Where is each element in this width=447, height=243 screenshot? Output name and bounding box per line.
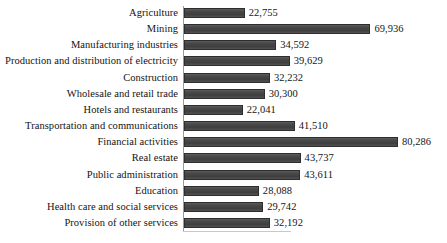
- bar-value-label: 32,192: [274, 215, 303, 231]
- bar-row: Transportation and communications41,510: [0, 118, 447, 134]
- bar-track: [184, 89, 265, 99]
- bar-row: Financial activities80,286: [0, 134, 447, 150]
- bar-track: [184, 137, 398, 147]
- category-label: Education: [2, 183, 178, 199]
- bar-track: [184, 56, 290, 66]
- bar-value-label: 28,088: [263, 183, 292, 199]
- bar: [184, 89, 265, 99]
- bar-row: Agriculture22,755: [0, 5, 447, 21]
- bar-row: Real estate43,737: [0, 150, 447, 166]
- plot-area: Agriculture22,755Mining69,936Manufacturi…: [0, 0, 447, 243]
- category-label: Wholesale and retail trade: [2, 86, 178, 102]
- bar-value-label: 80,286: [402, 134, 431, 150]
- bar-value-label: 43,611: [304, 167, 333, 183]
- bar: [184, 218, 270, 228]
- bar-row: Hotels and restaurants22,041: [0, 102, 447, 118]
- bar: [184, 121, 295, 131]
- bar-track: [184, 73, 270, 83]
- category-label: Provision of other services: [2, 215, 178, 231]
- category-label: Construction: [2, 70, 178, 86]
- bar-track: [184, 202, 263, 212]
- bar-row: Production and distribution of electrici…: [0, 53, 447, 69]
- bar-value-label: 41,510: [299, 118, 328, 134]
- bar-track: [184, 218, 270, 228]
- bar-track: [184, 105, 243, 115]
- category-label: Real estate: [2, 150, 178, 166]
- bar-track: [184, 186, 259, 196]
- bar-value-label: 22,755: [249, 5, 278, 21]
- bar: [184, 56, 290, 66]
- bar-value-label: 34,592: [280, 37, 309, 53]
- bar-value-label: 30,300: [269, 86, 298, 102]
- category-label: Public administration: [2, 167, 178, 183]
- bar-value-label: 39,629: [294, 53, 323, 69]
- bar: [184, 137, 398, 147]
- bar: [184, 24, 370, 34]
- bar-track: [184, 24, 370, 34]
- bar-value-label: 29,742: [267, 199, 296, 215]
- bar-row: Wholesale and retail trade30,300: [0, 86, 447, 102]
- bar: [184, 8, 245, 18]
- category-label: Transportation and communications: [2, 118, 178, 134]
- bar-track: [184, 40, 276, 50]
- bar: [184, 170, 300, 180]
- category-label: Mining: [2, 21, 178, 37]
- category-label: Manufacturing industries: [2, 37, 178, 53]
- bar: [184, 186, 259, 196]
- bar-track: [184, 153, 301, 163]
- bar-row: Provision of other services32,192: [0, 215, 447, 231]
- category-label: Hotels and restaurants: [2, 102, 178, 118]
- bar-row: Manufacturing industries34,592: [0, 37, 447, 53]
- bar: [184, 40, 276, 50]
- bar-row: Health care and social services29,742: [0, 199, 447, 215]
- bar-value-label: 43,737: [305, 150, 334, 166]
- bar-track: [184, 8, 245, 18]
- bar-row: Education28,088: [0, 183, 447, 199]
- category-label: Financial activities: [2, 134, 178, 150]
- category-label: Production and distribution of electrici…: [2, 53, 178, 69]
- bar-value-label: 22,041: [247, 102, 276, 118]
- value-axis-baseline: [183, 231, 291, 232]
- bar: [184, 105, 243, 115]
- bar-track: [184, 170, 300, 180]
- bar: [184, 73, 270, 83]
- bar-value-label: 69,936: [374, 21, 403, 37]
- bar-row: Public administration43,611: [0, 167, 447, 183]
- horizontal-bar-chart: Agriculture22,755Mining69,936Manufacturi…: [0, 0, 447, 243]
- bar-track: [184, 121, 295, 131]
- bar-value-label: 32,232: [274, 70, 303, 86]
- category-label: Health care and social services: [2, 199, 178, 215]
- bar-row: Mining69,936: [0, 21, 447, 37]
- bar-row: Construction32,232: [0, 70, 447, 86]
- bar: [184, 202, 263, 212]
- category-label: Agriculture: [2, 5, 178, 21]
- bar: [184, 153, 301, 163]
